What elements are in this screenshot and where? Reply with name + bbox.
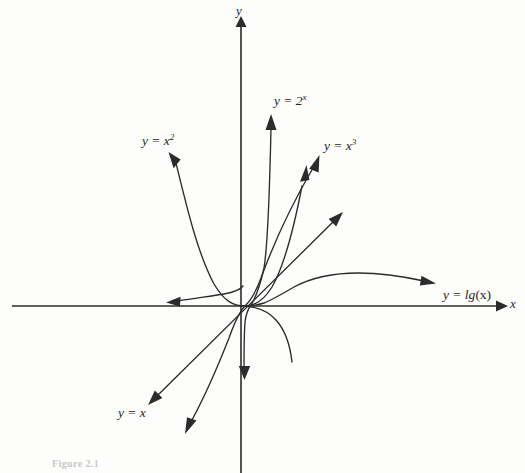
label-y-equals-x-squared-exponent: 2 [170,132,175,142]
curve-quadratic-arrowhead-right [300,165,309,182]
curve-quadratic-path [176,163,302,306]
function-plot [0,0,525,473]
label-y-equals-x-squared: y = x2 [142,134,174,148]
curve-logarithm-descending-branch [245,306,292,362]
curve-cubic-arrowhead-upper [309,155,319,172]
label-y-equals-lg-x: y = lg(x) [443,288,491,302]
curve-exponential-path [244,128,271,368]
curve-exponential-arrowhead-up [266,114,277,130]
figure-container: y = x2 y = 2x y = x3 y = lg(x) y = x x y… [0,0,525,473]
label-y-equals-lg-x-lhs: y = [443,287,465,302]
curve-cubic-path [192,168,313,420]
label-y-equals-two-to-the-x-lhs: y = [274,93,296,108]
label-y-equals-two-to-the-x: y = 2x [274,94,307,108]
label-y-equals-x-cubed: y = x3 [324,139,356,153]
label-y-equals-x: y = x [118,406,146,420]
x-axis-label: x [510,297,516,310]
curve-logarithm-arrowhead-right [420,276,436,286]
curve-logarithm-left-asymptote [177,286,243,301]
curve-quadratic-arrowhead-left [169,152,181,168]
label-y-equals-x-squared-lhs: y = [142,133,164,148]
curve-cubic-arrowhead-lower [185,417,197,434]
figure-caption: Figure 2.1 [52,458,99,469]
curve-quadratic [169,152,310,306]
axes-group [12,16,508,473]
label-y-equals-two-to-the-x-exponent: x [303,92,307,102]
curve-logarithm-arrowhead-left [166,297,181,307]
label-y-equals-x-cubed-lhs: y = [324,138,346,153]
curve-logarithm-right-branch [245,273,424,306]
label-y-equals-lg-x-argument: (x) [475,287,491,302]
label-y-equals-lg-x-function: lg [465,287,476,302]
label-y-equals-two-to-the-x-base: 2 [296,93,303,108]
curve-logarithm [166,273,436,362]
y-axis-label: y [236,4,242,17]
x-axis-arrowhead [496,301,508,312]
label-y-equals-x-cubed-exponent: 3 [352,137,357,147]
curve-exponential [239,114,277,380]
